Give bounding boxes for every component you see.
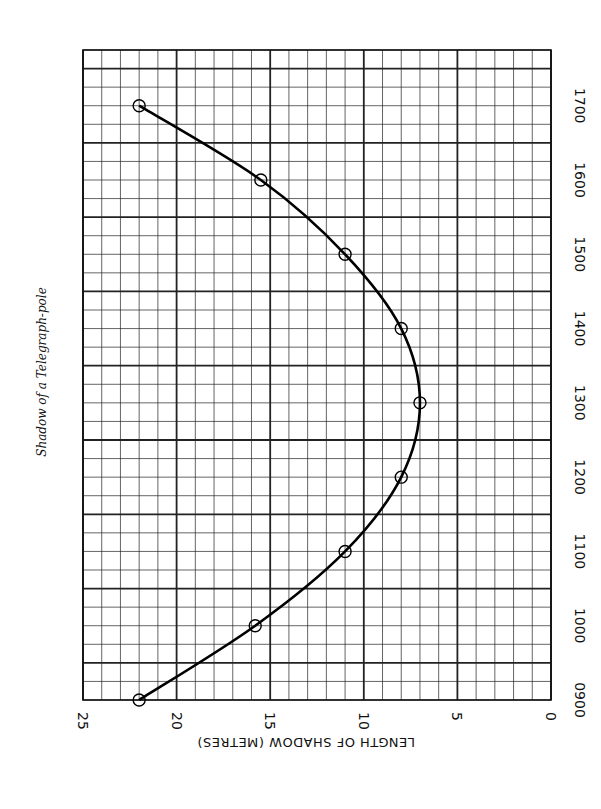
length-tick-label: 10 — [356, 712, 372, 730]
length-axis-label: LENGTH OF SHADOW (METRES) — [197, 735, 415, 750]
length-tick-label: 0 — [543, 712, 559, 721]
time-tick-label: 1400 — [572, 311, 588, 347]
length-tick-label: 5 — [449, 712, 465, 721]
time-tick-label: 1500 — [572, 236, 588, 272]
time-tick-label: 1700 — [572, 88, 588, 124]
time-axis-ticks: 090010001100120013001400150016001700 — [572, 88, 588, 718]
time-tick-label: 1300 — [572, 385, 588, 421]
time-tick-label: 1600 — [572, 162, 588, 198]
length-axis-ticks: 2520151050 — [75, 712, 559, 730]
chart-grid — [83, 50, 551, 700]
time-tick-label: 1100 — [572, 534, 588, 570]
chart: 090010001100120013001400150016001700 252… — [0, 0, 601, 809]
time-tick-label: 1000 — [572, 608, 588, 644]
time-tick-label: 0900 — [572, 682, 588, 718]
length-tick-label: 20 — [169, 712, 185, 730]
plot-border — [83, 50, 551, 700]
length-tick-label: 25 — [75, 712, 91, 730]
chart-title: Shadow of a Telegraph-pole — [35, 287, 49, 457]
length-tick-label: 15 — [262, 712, 278, 730]
time-tick-label: 1200 — [572, 459, 588, 495]
